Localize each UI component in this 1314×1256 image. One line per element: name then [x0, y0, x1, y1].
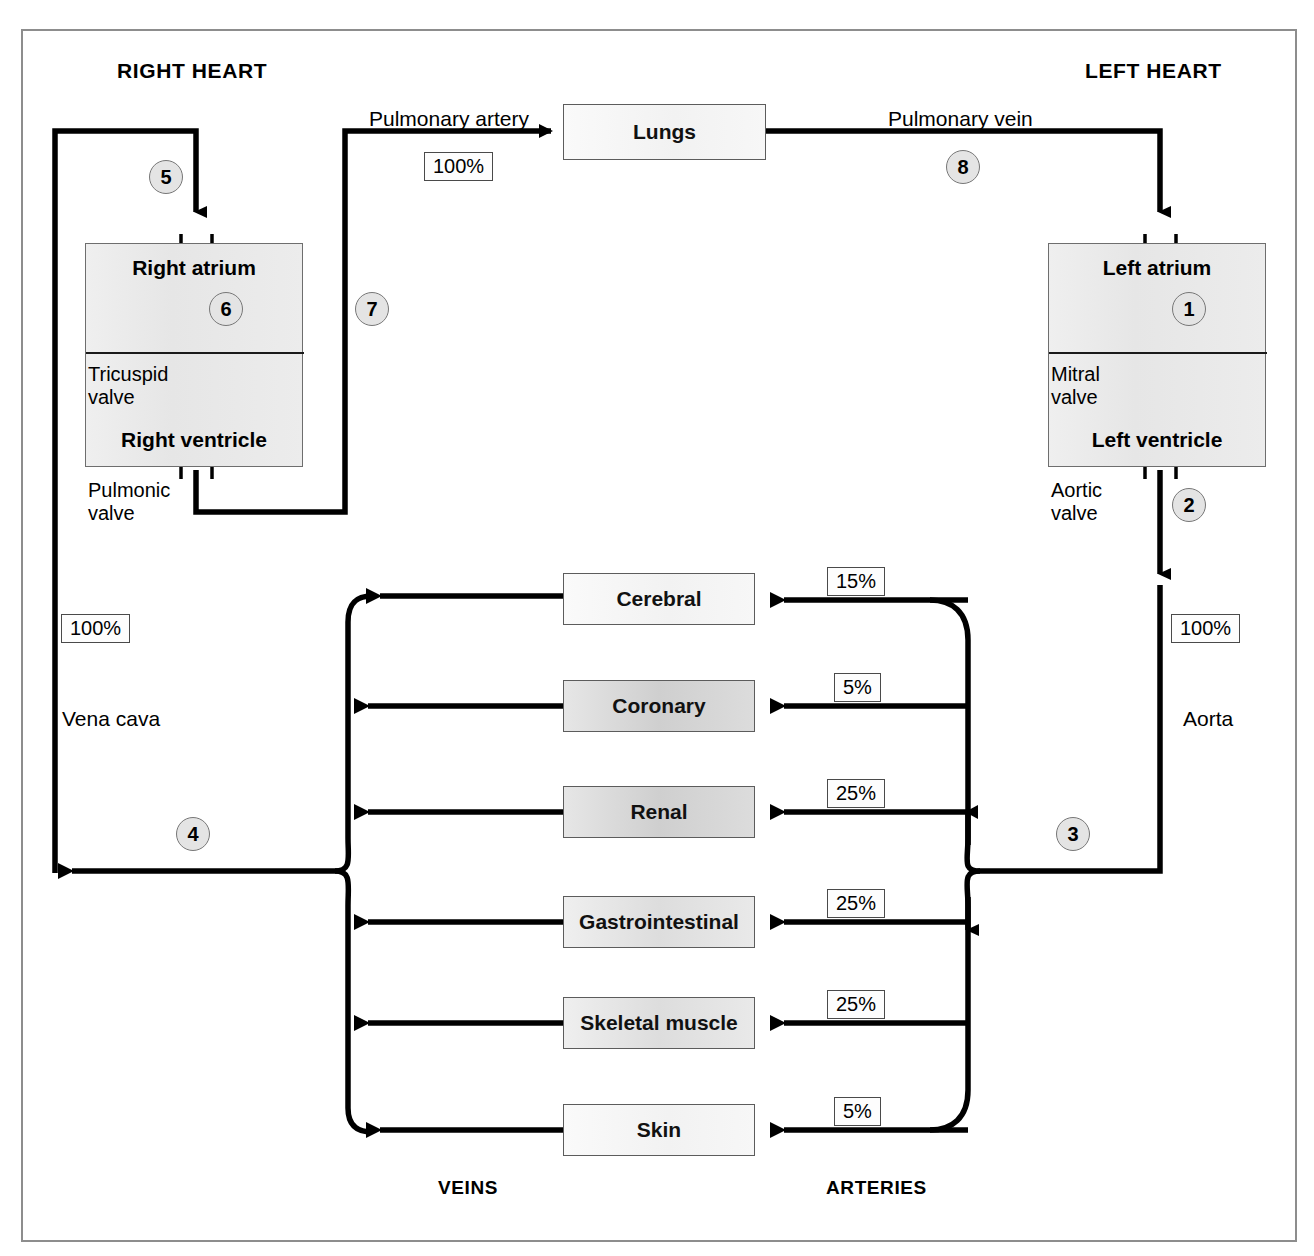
percent-gastrointestinal: 25% — [827, 889, 885, 918]
step-circle-8: 8 — [946, 150, 980, 184]
mitral-divider — [1049, 352, 1267, 354]
percent-aorta: 100% — [1171, 614, 1240, 643]
valve-label-aortic-line1: Aortic — [1051, 479, 1102, 502]
step-circle-2: 2 — [1172, 488, 1206, 522]
valve-label-mitral-line1: Mitral — [1051, 363, 1100, 386]
vessel-label-aorta: Aorta — [1183, 707, 1233, 731]
tricuspid-divider — [86, 352, 304, 354]
chamber-label-left-atrium: Left atrium — [1048, 256, 1266, 280]
chamber-label-left-ventricle: Left ventricle — [1048, 428, 1266, 452]
step-circle-3: 3 — [1056, 817, 1090, 851]
organ-box-gastrointestinal: Gastrointestinal — [563, 896, 755, 948]
valve-label-tricuspid-line2: valve — [88, 386, 135, 409]
step-circle-4: 4 — [176, 817, 210, 851]
percent-renal: 25% — [827, 779, 885, 808]
percent-pulmonary-artery: 100% — [424, 152, 493, 181]
valve-label-aortic-line2: valve — [1051, 502, 1098, 525]
percent-vena-cava: 100% — [61, 614, 130, 643]
step-circle-5: 5 — [149, 160, 183, 194]
organ-box-coronary: Coronary — [563, 680, 755, 732]
vessel-label-pulmonary-vein: Pulmonary vein — [888, 107, 1033, 131]
footer-label-arteries: ARTERIES — [826, 1177, 927, 1199]
step-circle-6: 6 — [209, 292, 243, 326]
organ-box-cerebral: Cerebral — [563, 573, 755, 625]
vessel-label-pulmonary-artery: Pulmonary artery — [369, 107, 529, 131]
figure-canvas: RIGHT HEART LEFT HEART Right atrium Righ… — [0, 0, 1314, 1256]
organ-box-lungs: Lungs — [563, 104, 766, 160]
organ-box-skeletal-muscle: Skeletal muscle — [563, 997, 755, 1049]
percent-skin: 5% — [834, 1097, 881, 1126]
organ-box-skin: Skin — [563, 1104, 755, 1156]
vessel-label-vena-cava: Vena cava — [62, 707, 160, 731]
valve-label-pulmonic-line1: Pulmonic — [88, 479, 170, 502]
percent-skeletal-muscle: 25% — [827, 990, 885, 1019]
footer-label-veins: VEINS — [438, 1177, 498, 1199]
valve-label-pulmonic-line2: valve — [88, 502, 135, 525]
heading-right-heart: RIGHT HEART — [117, 59, 267, 83]
percent-coronary: 5% — [834, 673, 881, 702]
chamber-label-right-atrium: Right atrium — [85, 256, 303, 280]
figure-border — [21, 29, 1297, 1242]
valve-label-mitral-line2: valve — [1051, 386, 1098, 409]
heading-left-heart: LEFT HEART — [1085, 59, 1222, 83]
valve-label-tricuspid-line1: Tricuspid — [88, 363, 168, 386]
percent-cerebral: 15% — [827, 567, 885, 596]
chamber-label-right-ventricle: Right ventricle — [85, 428, 303, 452]
organ-box-renal: Renal — [563, 786, 755, 838]
step-circle-1: 1 — [1172, 292, 1206, 326]
step-circle-7: 7 — [355, 292, 389, 326]
